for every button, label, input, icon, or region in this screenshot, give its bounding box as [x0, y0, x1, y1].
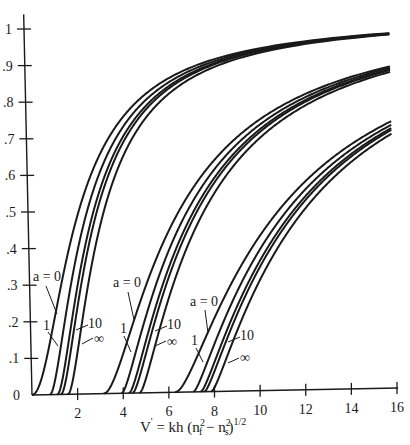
plot-area: 0.1.2.3.4.5.6.7.8.91 246810121416 a = 01…	[2, 14, 404, 421]
x-axis-title: V' = kh (n2f − n2s)1/2	[140, 416, 246, 437]
curve-label: ∞	[167, 334, 177, 349]
y-tick-label: .1	[9, 351, 20, 366]
x-tick-label: 4	[120, 405, 127, 420]
curve-label: 1	[191, 333, 198, 348]
y-tick-label: .5	[6, 205, 17, 220]
x-tick-label: 12	[299, 402, 313, 417]
x-tick-label: 6	[165, 404, 172, 419]
y-tick-label: .6	[5, 168, 16, 183]
curve-label: 10	[88, 316, 102, 331]
curve-label: a = 0	[190, 294, 218, 309]
curve-label: ∞	[94, 331, 104, 346]
y-tick-label: .7	[4, 132, 15, 147]
dispersion-curve	[204, 130, 391, 392]
leader-line	[46, 286, 57, 314]
x-tick-label: 16	[390, 400, 404, 415]
y-axis	[24, 14, 32, 395]
y-tick-label: .9	[2, 59, 13, 74]
dispersion-curve	[175, 121, 391, 392]
y-tick-label: 1	[5, 22, 12, 37]
x-tick-label: 8	[211, 404, 218, 419]
curve-label: ∞	[240, 350, 250, 365]
y-tick-label: .3	[7, 278, 18, 293]
y-tick-label: .4	[6, 242, 17, 257]
curve-label: 1	[43, 318, 50, 333]
leader-line	[82, 338, 93, 344]
curve-label: 10	[167, 317, 181, 332]
x-title-main: V	[140, 419, 151, 435]
y-tick-label: .2	[8, 315, 19, 330]
y-axis-ticks: 0.1.2.3.4.5.6.7.8.91	[2, 22, 38, 403]
leader-line	[228, 358, 239, 363]
y-tick-label: .8	[3, 95, 14, 110]
dispersion-curve	[122, 68, 390, 393]
b-vs-v-dispersion-chart: 0.1.2.3.4.5.6.7.8.91 246810121416 a = 01…	[0, 0, 410, 445]
curve-label: a = 0	[33, 269, 61, 284]
y-tick-label: 0	[13, 388, 20, 403]
dispersion-curves	[32, 33, 391, 395]
curve-label: a = 0	[113, 275, 141, 290]
leader-line	[205, 310, 208, 333]
curve-label: 1	[120, 321, 127, 336]
x-tick-label: 10	[253, 403, 267, 418]
x-tick-label: 2	[74, 406, 81, 421]
x-tick-label: 14	[344, 401, 358, 416]
curve-label: 10	[240, 328, 254, 343]
dispersion-curve	[211, 134, 391, 392]
leader-line	[128, 292, 134, 320]
